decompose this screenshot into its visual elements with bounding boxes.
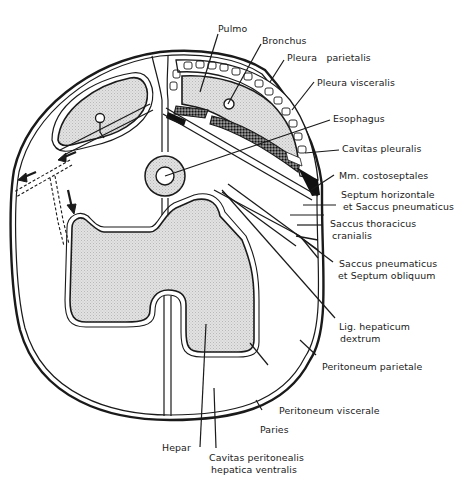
label-lig-hepaticum-2: dextrum: [340, 333, 380, 344]
arrow-left-icon-2: [18, 173, 27, 182]
hepar-liver: [65, 194, 259, 416]
label-esophagus: Esophagus: [333, 113, 385, 124]
label-saccus-thoracicus-2: cranialis: [332, 230, 372, 241]
label-pleura-parietalis: Pleura parietalis: [287, 52, 371, 63]
label-cavitas-pleuralis: Cavitas pleuralis: [342, 143, 421, 154]
label-cavitas-peritonealis-2: hepatica ventralis: [211, 464, 297, 475]
label-lig-hepaticum-1: Lig. hepaticum: [339, 321, 410, 332]
label-hepar: Hepar: [162, 442, 191, 453]
arrow-down-icon: [67, 204, 76, 214]
label-peritoneum-viscerale: Peritoneum viscerale: [279, 405, 380, 416]
anatomical-diagram: Pulmo Bronchus Pleura parietalis Pleura …: [0, 0, 471, 487]
bronchus-left-icon: [96, 114, 105, 123]
label-pulmo: Pulmo: [218, 23, 248, 34]
left-lung: [170, 60, 318, 180]
label-saccus-thoracicus-1: Saccus thoracicus: [330, 218, 416, 229]
label-cavitas-peritonealis-1: Cavitas peritonealis: [209, 452, 304, 463]
arrow-left-icon: [58, 153, 66, 162]
label-peritoneum-parietale: Peritoneum parietale: [322, 361, 423, 372]
right-lung: [52, 73, 153, 152]
label-septum-horizontale-2: et Saccus pneumaticus: [343, 201, 454, 212]
label-pleura-visceralis: Pleura visceralis: [317, 77, 395, 88]
label-saccus-pneumaticus-2: et Septum obliquum: [338, 270, 436, 281]
label-paries: Paries: [260, 424, 289, 435]
dashed-tracks: [14, 160, 72, 246]
label-septum-horizontale-1: Septum horizontale: [341, 189, 435, 200]
label-saccus-pneumaticus-1: Saccus pneumaticus: [339, 258, 437, 269]
label-bronchus: Bronchus: [262, 35, 306, 46]
bronchus-icon: [224, 99, 234, 109]
label-mm-costoseptales: Mm. costoseptales: [339, 170, 428, 181]
